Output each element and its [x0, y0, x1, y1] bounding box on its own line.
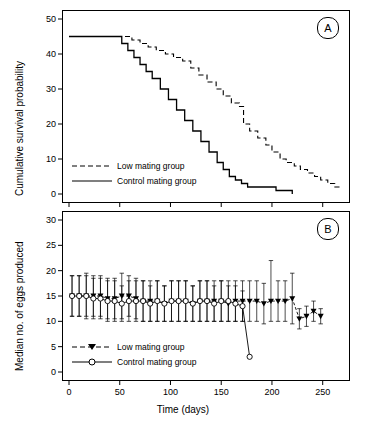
legend-label-low-mating-b: Low mating group — [117, 342, 185, 352]
figure-root: A Cumulative survival probability Low ma… — [0, 0, 366, 431]
y-tick-label: 20 — [46, 266, 56, 276]
y-tick-label: 15 — [46, 291, 56, 301]
panel-b-y-axis-label: Median no. of eggs produced — [14, 241, 25, 371]
x-axis-label: Time (days) — [0, 404, 366, 415]
legend-item-low-mating-b: Low mating group — [72, 339, 196, 354]
panel-a-tag: A — [317, 17, 339, 39]
panel-a-legend: Low mating group Control mating group — [72, 158, 196, 188]
panel-b-legend: Low mating group Control mating group — [72, 339, 196, 369]
y-tick-label: 30 — [46, 84, 56, 94]
legend-item-control-mating-b: Control mating group — [72, 354, 196, 369]
legend-item-control-mating-a: Control mating group — [72, 173, 196, 188]
y-tick-label: 30 — [46, 215, 56, 225]
panel-a-y-axis-label: Cumulative survival probability — [14, 61, 25, 196]
panel-b-tag: B — [317, 218, 339, 240]
y-tick-label: 0 — [51, 189, 56, 199]
legend-key-dashed-a — [72, 161, 112, 171]
legend-key-dashed-b — [72, 342, 112, 352]
x-tick-label: 200 — [264, 387, 279, 397]
legend-item-low-mating-a: Low mating group — [72, 158, 196, 173]
x-tick-label: 250 — [315, 387, 330, 397]
x-tick-label: 100 — [163, 387, 178, 397]
legend-label-control-mating-a: Control mating group — [117, 176, 196, 186]
legend-label-control-mating-b: Control mating group — [117, 357, 196, 367]
legend-key-solid-b — [72, 357, 112, 367]
legend-label-low-mating-a: Low mating group — [117, 161, 185, 171]
y-tick-label: 40 — [46, 49, 56, 59]
y-tick-label: 10 — [46, 316, 56, 326]
y-tick-label: 50 — [46, 14, 56, 24]
y-tick-label: 10 — [46, 154, 56, 164]
x-tick-label: 150 — [214, 387, 229, 397]
y-tick-label: 25 — [46, 240, 56, 250]
y-tick-label: 20 — [46, 119, 56, 129]
y-tick-label: 0 — [51, 367, 56, 377]
legend-key-solid-a — [72, 176, 112, 186]
x-tick-label: 50 — [115, 387, 125, 397]
x-tick-label: 0 — [66, 387, 71, 397]
y-tick-label: 5 — [51, 342, 56, 352]
